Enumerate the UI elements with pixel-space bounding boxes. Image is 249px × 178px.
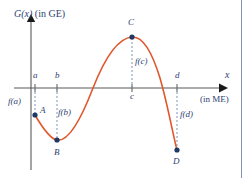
value-label-fa: f(a) — [8, 97, 21, 106]
value-label-fb: f(b) — [58, 108, 71, 117]
point-marker-A — [32, 112, 37, 117]
x-axis-unit: (in ME) — [200, 95, 229, 104]
y-axis-label: G(x) (in GE) — [14, 9, 65, 19]
tick-label-b: b — [55, 71, 60, 80]
y-axis-unit: (in GE) — [35, 8, 65, 19]
point-label-B: B — [54, 148, 60, 157]
tick-label-c: c — [130, 92, 134, 101]
figure-root: G(x) (in GE) x (in ME) a b c d f(a) f(b)… — [0, 0, 249, 178]
point-label-D: D — [173, 157, 180, 166]
value-label-fd: f(d) — [180, 110, 193, 119]
point-marker-B — [54, 137, 59, 142]
point-label-C: C — [128, 18, 134, 27]
tick-label-a: a — [33, 71, 38, 80]
x-axis-label: x — [225, 70, 229, 80]
point-label-A: A — [40, 106, 46, 115]
graph-canvas — [0, 0, 249, 178]
x-axis-arrow-icon — [219, 84, 228, 93]
right-edge-rule — [241, 0, 242, 178]
point-marker-C — [129, 34, 134, 39]
y-axis-label-symbol: G(x) — [14, 8, 32, 19]
function-curve — [35, 37, 177, 150]
point-marker-D — [174, 147, 179, 152]
value-label-fc: f(c) — [135, 57, 148, 66]
tick-label-d: d — [175, 71, 180, 80]
